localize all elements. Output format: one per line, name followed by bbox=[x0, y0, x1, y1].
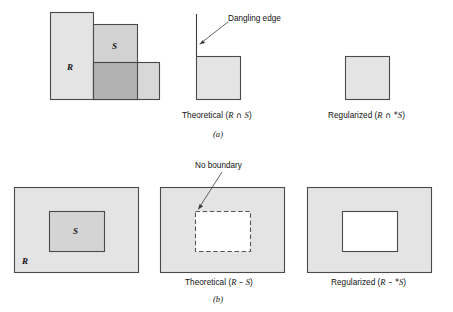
caption-a-regularized-suffix: ) bbox=[402, 111, 405, 120]
rect-R-a bbox=[51, 13, 94, 100]
intersection-operator-icon: ∩ bbox=[233, 111, 244, 120]
regularized-intersection-operator-icon: ∩ * bbox=[383, 111, 398, 120]
difference-operator-icon: – bbox=[236, 278, 245, 287]
panel-a-theoretical-group bbox=[197, 14, 241, 100]
result-square-a-regularized bbox=[346, 57, 390, 100]
caption-a-theoretical: Theoretical (R ∩ S) bbox=[182, 110, 252, 120]
panel-sub-label-b: (b) bbox=[213, 294, 223, 304]
figure-canvas: R S Dangling edge Theoretical (R ∩ S) Re… bbox=[0, 0, 453, 312]
caption-a-regularized-prefix: Regularized ( bbox=[328, 111, 377, 120]
shape-label-S-b: S bbox=[73, 226, 78, 236]
shape-label-R-b: R bbox=[22, 256, 28, 266]
caption-b-theoretical: Theoretical (R – S) bbox=[185, 277, 253, 287]
caption-a-theoretical-suffix: ) bbox=[249, 111, 252, 120]
caption-b-regularized-suffix: ) bbox=[403, 278, 406, 287]
regularized-difference-operator-icon: – * bbox=[386, 278, 399, 287]
caption-a-regularized: Regularized (R ∩ *S) bbox=[328, 110, 405, 120]
annotation-no-boundary: No boundary bbox=[195, 161, 242, 170]
figure-vector-layer bbox=[0, 0, 453, 312]
intersection-region-a bbox=[94, 63, 138, 100]
dangling-edge-arrow-shaft bbox=[201, 22, 228, 43]
shape-label-R-a: R bbox=[67, 62, 73, 72]
panel-b-theoretical-group bbox=[161, 172, 285, 273]
caption-b-regularized: Regularized (R – *S) bbox=[331, 277, 406, 287]
result-square-a-theoretical bbox=[197, 57, 241, 100]
panel-sub-label-a: (a) bbox=[213, 129, 223, 139]
panel-a-operands-group bbox=[51, 13, 160, 100]
panel-a-regularized-group bbox=[346, 57, 390, 100]
caption-b-theoretical-prefix: Theoretical ( bbox=[185, 278, 231, 287]
shape-label-S-a: S bbox=[112, 41, 117, 51]
panel-b-regularized-group bbox=[308, 188, 432, 273]
annotation-dangling-edge: Dangling edge bbox=[228, 14, 281, 23]
caption-b-regularized-prefix: Regularized ( bbox=[331, 278, 380, 287]
hole-solid-b-regularized bbox=[343, 212, 398, 252]
caption-b-theoretical-suffix: ) bbox=[250, 278, 253, 287]
caption-a-theoretical-prefix: Theoretical ( bbox=[182, 111, 228, 120]
hole-dashed-b-theoretical bbox=[196, 212, 251, 252]
